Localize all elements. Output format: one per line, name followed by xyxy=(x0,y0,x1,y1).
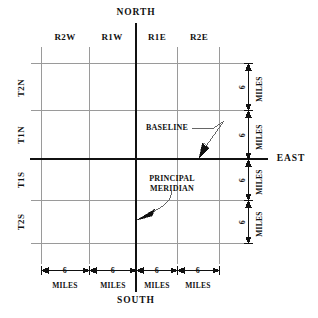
bottom-dimension-value-4: 6 xyxy=(196,267,200,275)
right-arrow-down-2 xyxy=(246,111,251,117)
bottom-arrow-left-4 xyxy=(213,268,219,273)
township-label-t1n: T1N xyxy=(17,126,26,144)
plss-township-range-diagram: NORTH SOUTH EAST R2W R1W R1E R2E T2N T1N… xyxy=(0,0,318,318)
annotation-baseline: BASELINE xyxy=(146,124,188,132)
bottom-dimension-unit-2: MILES xyxy=(100,282,126,290)
bottom-dimension-unit-1: MILES xyxy=(52,282,78,290)
annotation-principal-meridian-line2: MERIDIAN xyxy=(150,185,194,193)
range-label-r1e: R1E xyxy=(148,33,166,42)
cardinal-label-east: EAST xyxy=(277,154,305,164)
bottom-arrow-right-3 xyxy=(137,268,143,273)
range-label-r2e: R2E xyxy=(190,33,208,42)
right-arrow-down-4 xyxy=(246,201,251,207)
right-arrow-up-3 xyxy=(246,194,251,200)
right-arrow-down-1 xyxy=(246,64,251,70)
principal-meridian-leader-arrowhead xyxy=(137,209,155,220)
bottom-dimension-value-2: 6 xyxy=(111,267,115,275)
right-dimension-value-2: 6 xyxy=(239,133,247,137)
township-label-t2s: T2S xyxy=(17,214,26,230)
bottom-dimension-value-1: 6 xyxy=(63,267,67,275)
bottom-arrow-left-3 xyxy=(171,268,177,273)
right-arrow-up-4 xyxy=(246,237,251,243)
bottom-dimension-value-3: 6 xyxy=(155,267,159,275)
bottom-dimension-line xyxy=(41,266,220,275)
range-label-r2w: R2W xyxy=(55,33,76,42)
range-label-r1w: R1W xyxy=(102,33,123,42)
baseline-leader-arrowhead xyxy=(199,143,209,158)
bottom-dimension-unit-4: MILES xyxy=(185,282,211,290)
bottom-arrow-right-4 xyxy=(178,268,184,273)
right-dimension-unit-1: MILES xyxy=(256,76,264,102)
bottom-arrow-right-1 xyxy=(42,268,48,273)
grid-horizontal-lines xyxy=(31,64,248,244)
principal-meridian-leader-path xyxy=(153,191,172,212)
right-dimension-value-1: 6 xyxy=(239,85,247,89)
right-arrow-up-1 xyxy=(246,104,251,110)
bottom-arrow-right-2 xyxy=(90,268,96,273)
cardinal-label-south: SOUTH xyxy=(117,296,155,306)
right-dimension-unit-4: MILES xyxy=(256,211,264,237)
grid-vertical-lines xyxy=(42,47,220,264)
principal-meridian-leader xyxy=(153,191,172,212)
right-dimension-line xyxy=(244,63,253,244)
bottom-dimension-unit-3: MILES xyxy=(144,282,170,290)
right-dimension-unit-2: MILES xyxy=(256,124,264,150)
right-arrow-down-3 xyxy=(246,160,251,166)
annotation-principal-meridian-line1: PRINCIPAL xyxy=(149,175,195,183)
cardinal-label-north: NORTH xyxy=(116,8,155,18)
bottom-arrow-left-1 xyxy=(83,268,89,273)
township-label-t2n: T2N xyxy=(17,79,26,97)
right-dimension-value-3: 6 xyxy=(239,178,247,182)
township-label-t1s: T1S xyxy=(17,172,26,188)
right-dimension-value-4: 6 xyxy=(239,220,247,224)
right-dimension-unit-3: MILES xyxy=(256,169,264,195)
